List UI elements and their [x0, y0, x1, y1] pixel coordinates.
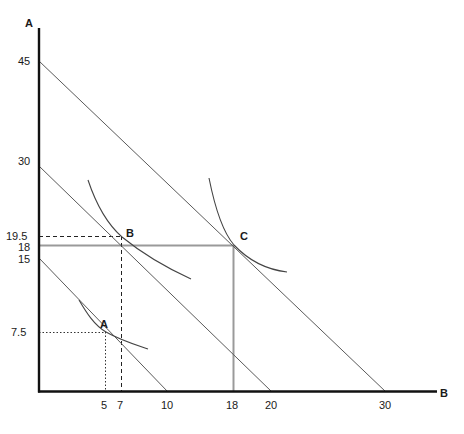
x-tick-label-20: 20	[265, 400, 277, 411]
y-tick-label-30: 30	[18, 156, 30, 167]
budget-lines	[39, 61, 386, 392]
chart-plot-area	[0, 0, 464, 434]
chart-container: A B 45 30 19.5 18 15 7.5 5 7 10 18 20 30…	[0, 0, 464, 434]
indifference-curves	[79, 178, 287, 349]
x-tick-label-30: 30	[379, 400, 391, 411]
x-tick-label-18: 18	[226, 400, 238, 411]
x-axis-title: B	[440, 388, 448, 399]
y-tick-label-45: 45	[18, 56, 30, 67]
y-tick-label-7-5: 7.5	[11, 327, 26, 338]
point-label-a: A	[100, 319, 108, 330]
x-tick-label-7: 7	[117, 400, 123, 411]
x-tick-label-10: 10	[161, 400, 173, 411]
y-tick-label-18: 18	[18, 242, 30, 253]
point-label-b: B	[126, 228, 134, 239]
budget-line-45-30	[39, 61, 386, 392]
y-axis-title: A	[25, 18, 33, 29]
indifference-curve-c	[209, 178, 287, 272]
point-label-c: C	[240, 231, 248, 242]
x-tick-label-5: 5	[101, 400, 107, 411]
chart-axes	[38, 28, 437, 393]
guide-lines-point-a	[39, 332, 106, 392]
budget-line-30-20	[39, 166, 272, 392]
indifference-curve-a	[79, 300, 148, 349]
guide-lines-point-c	[39, 245, 234, 392]
guide-lines-point-b	[39, 236, 122, 392]
y-tick-label-15: 15	[18, 254, 30, 265]
